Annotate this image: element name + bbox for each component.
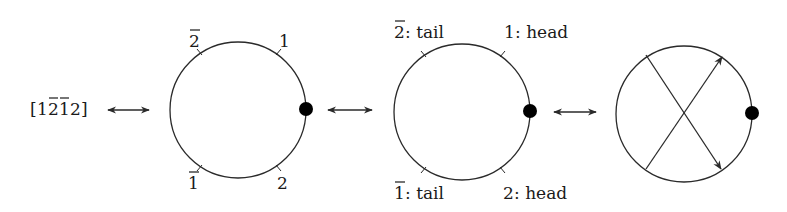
basepoint-dot-icon <box>745 106 759 120</box>
basepoint-dot-icon <box>299 102 313 116</box>
tick-mark <box>276 165 281 171</box>
word-symbol-2: 2 <box>48 99 59 119</box>
word-symbol-1: 1 <box>37 99 48 119</box>
gauss-word: [ 1 2 1 2 ] <box>30 98 88 119</box>
label-top-left-suffix: : tail <box>405 22 444 42</box>
circle-outline <box>170 42 306 178</box>
word-symbol-3: 1 <box>59 99 70 119</box>
label-top-right-digit: 1 <box>504 22 515 42</box>
label-bottom-right-digit: 2 <box>503 183 514 203</box>
word-symbol-4: 2 <box>70 99 81 119</box>
label-top-left: 2 <box>189 31 200 51</box>
tick-mark <box>500 167 505 173</box>
label-top-left-digit: 2 <box>394 22 405 42</box>
word-open-bracket: [ <box>30 99 37 119</box>
diagram-circle-3 <box>616 46 759 182</box>
diagram-circle-2: 2 : tail 1 : head 1 : tail 2 : head <box>394 21 568 203</box>
label-top-right-suffix: : head <box>515 22 568 42</box>
label-bottom-left-suffix: : tail <box>405 183 444 203</box>
diagram-circle-1: 2 1 1 2 <box>170 30 313 193</box>
word-close-bracket: ] <box>81 99 88 119</box>
label-bottom-left: 1 <box>188 173 199 193</box>
basepoint-dot-icon <box>523 104 537 118</box>
label-bottom-right: 2 <box>277 173 288 193</box>
circle-outline <box>394 44 530 180</box>
label-bottom-left-digit: 1 <box>394 183 405 203</box>
gauss-diagram-figure: [ 1 2 1 2 ] 2 1 1 2 2 : tai <box>0 0 787 212</box>
tick-mark <box>500 51 505 57</box>
label-bottom-right-suffix: : head <box>514 183 567 203</box>
label-top-right: 1 <box>279 31 290 51</box>
